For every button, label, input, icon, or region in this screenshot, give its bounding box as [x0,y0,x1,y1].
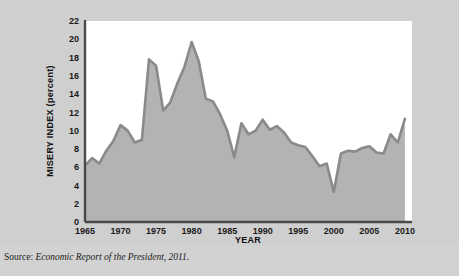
x-tick-label: 1965 [75,226,95,236]
x-tick-label: 2000 [324,226,344,236]
x-tick-label: 1995 [288,226,308,236]
source-title: Economic Report of the President, 2011. [35,252,189,262]
y-tick-label: 6 [74,162,79,172]
y-tick-label: 14 [69,89,79,99]
source-label: Source: [4,252,33,262]
misery-index-chart: 0246810121416182022196519701975198019851… [0,0,459,246]
y-tick-label: 4 [74,181,79,191]
y-tick-label: 16 [69,71,79,81]
x-tick-label: 1970 [111,226,131,236]
y-tick-label: 12 [69,108,79,118]
x-tick-label: 2010 [395,226,415,236]
x-tick-label: 1980 [182,226,202,236]
chart-figure: 0246810121416182022196519701975198019851… [0,0,459,246]
x-axis-title: YEAR [235,235,261,245]
x-tick-label: 1975 [146,226,166,236]
y-tick-label: 2 [74,199,79,209]
y-tick-label: 8 [74,144,79,154]
y-tick-label: 18 [69,53,79,63]
source-note: Source: Economic Report of the President… [4,252,189,262]
y-tick-label: 10 [69,126,79,136]
y-tick-label: 20 [69,34,79,44]
x-tick-label: 2005 [359,226,379,236]
y-tick-label: 22 [69,16,79,26]
y-axis-title: MISERY INDEX (percent) [45,65,55,177]
